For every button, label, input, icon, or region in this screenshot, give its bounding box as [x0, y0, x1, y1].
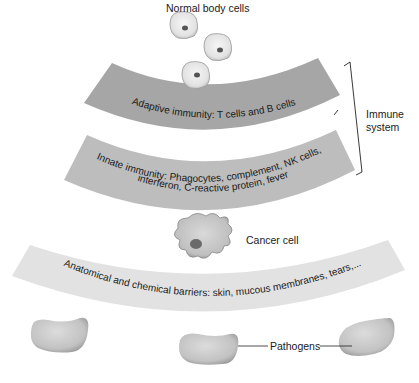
pathogen-icon [179, 334, 238, 365]
normal-cell-icon [182, 62, 210, 89]
pathogen-icon [339, 318, 395, 356]
pathogen-icon [31, 318, 88, 353]
normal-cell-icon [204, 34, 232, 61]
innate-immunity-band [64, 130, 355, 210]
diagram-canvas: Adaptive immunity: T cells and B cells I… [0, 0, 419, 383]
normal-cells-label: Normal body cells [166, 2, 249, 14]
normal-cell-icon [170, 12, 198, 39]
cancer-cell-icon [174, 213, 232, 258]
pathogens-label: Pathogens [270, 340, 320, 352]
immune-system-label-line1: Immune [366, 108, 404, 121]
immune-system-label: Immune system [366, 108, 404, 134]
immune-system-label-line2: system [366, 121, 404, 134]
cancer-cell-label: Cancer cell [246, 234, 299, 246]
